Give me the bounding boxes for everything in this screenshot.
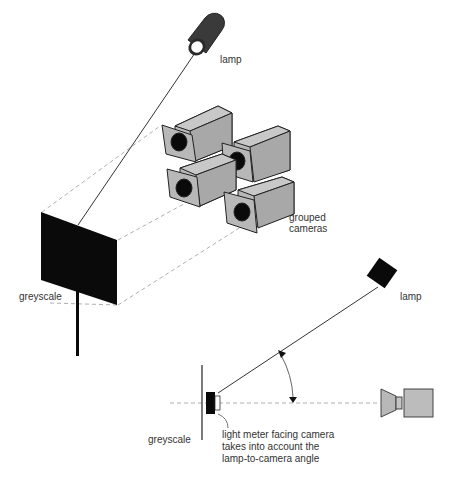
bottom-greyscale-label: greyscale bbox=[148, 434, 191, 446]
grouped-cameras-label-2: cameras bbox=[289, 223, 327, 235]
light-meter-icon bbox=[206, 392, 220, 414]
camera-icon bbox=[162, 106, 232, 162]
light-meter-note-line-1: light meter facing camera bbox=[222, 429, 334, 441]
angle-arc bbox=[281, 355, 293, 397]
lamp-square-icon bbox=[367, 258, 398, 289]
light-meter-note-line-2: takes into account the bbox=[222, 441, 319, 453]
greyscale-card bbox=[41, 212, 117, 356]
top-lamp-label: lamp bbox=[220, 54, 242, 66]
note-leader-line bbox=[218, 414, 228, 428]
side-camera-icon bbox=[381, 389, 433, 417]
arrowhead-icon bbox=[278, 350, 286, 358]
light-meter-note-line-3: lamp-to-camera angle bbox=[222, 453, 319, 465]
arrowhead-icon bbox=[289, 397, 297, 403]
lighting-diagram bbox=[0, 0, 450, 480]
lamp-beam-line-bottom bbox=[218, 287, 378, 393]
greyscale-stand bbox=[76, 290, 79, 356]
top-greyscale-label: greyscale bbox=[19, 291, 62, 303]
bottom-lamp-label: lamp bbox=[400, 291, 422, 303]
lamp-cylinder-icon bbox=[185, 13, 225, 59]
